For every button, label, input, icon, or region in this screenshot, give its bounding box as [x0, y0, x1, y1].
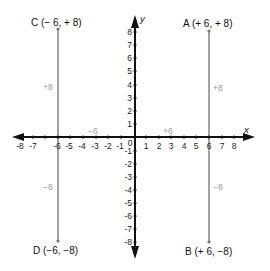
x-axis-left-arrow-icon	[12, 133, 24, 141]
point-b-label: B (+ 6, −8)	[185, 246, 232, 257]
svg-text:1: 1	[127, 119, 132, 129]
svg-text:-5: -5	[124, 198, 132, 208]
y-axis-down-arrow-icon	[131, 246, 139, 259]
svg-text:6: 6	[207, 141, 212, 151]
svg-text:-8: -8	[16, 141, 24, 151]
svg-text:1: 1	[144, 141, 149, 151]
svg-text:2: 2	[127, 106, 132, 116]
svg-text:-1: -1	[124, 146, 132, 156]
svg-text:-3: -3	[91, 141, 99, 151]
svg-text:5: 5	[127, 66, 132, 76]
x-axis	[12, 133, 255, 141]
point-a	[207, 29, 210, 32]
neg-six-label: −6	[88, 126, 98, 136]
svg-text:-1: -1	[116, 141, 124, 151]
point-c-label: C (− 6, + 8)	[31, 17, 82, 28]
c-vertical-label: +8	[43, 82, 53, 92]
point-a-label: A (+ 6, + 8)	[183, 18, 232, 29]
svg-text:6: 6	[127, 53, 132, 63]
point-b	[207, 240, 210, 243]
y-axis-up-arrow-icon	[131, 15, 139, 28]
svg-text:-6: -6	[124, 211, 132, 221]
svg-text:2: 2	[157, 141, 162, 151]
b-vertical-label: −8	[213, 182, 223, 192]
svg-text:8: 8	[232, 141, 237, 151]
svg-text:-7: -7	[29, 141, 37, 151]
a-vertical-label: +8	[213, 83, 223, 93]
svg-text:-2: -2	[124, 159, 132, 169]
svg-text:4: 4	[127, 80, 132, 90]
svg-text:-3: -3	[124, 172, 132, 182]
svg-text:3: 3	[169, 141, 174, 151]
svg-text:-8: -8	[124, 237, 132, 247]
svg-text:-2: -2	[104, 141, 112, 151]
pos-six-label: +6	[163, 126, 173, 136]
point-d-label: D (−6, −8)	[33, 245, 78, 256]
svg-text:-5: -5	[65, 141, 73, 151]
svg-text:7: 7	[127, 40, 132, 50]
svg-text:-4: -4	[78, 141, 86, 151]
svg-text:4: 4	[182, 141, 187, 151]
svg-text:7: 7	[220, 141, 225, 151]
svg-text:3: 3	[127, 93, 132, 103]
svg-text:-6: -6	[53, 141, 61, 151]
coordinate-plane: x y -8 -7 -6 -5 -4 -3 -2 -1 0 1 2 3 4 5 …	[0, 0, 270, 271]
svg-text:5: 5	[194, 141, 199, 151]
svg-text:-4: -4	[124, 185, 132, 195]
svg-text:8: 8	[127, 27, 132, 37]
d-vertical-label: −8	[43, 182, 53, 192]
point-d	[56, 239, 59, 242]
svg-text:-7: -7	[124, 224, 132, 234]
y-axis-label: y	[139, 13, 146, 24]
x-axis-label: x	[243, 124, 250, 135]
